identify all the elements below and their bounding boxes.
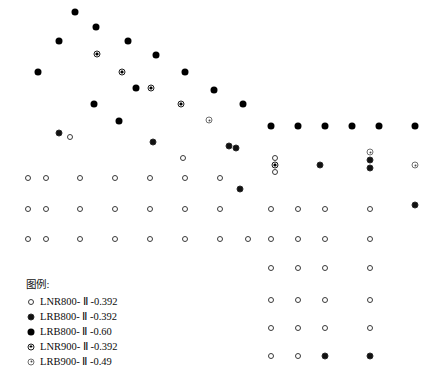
data-point-lrb900 [412,162,419,169]
data-point-lrb800b [153,52,160,59]
data-point-lnr900 [272,162,279,169]
data-point-lrb800b [56,38,63,45]
scatter-plot-figure: 图例: LNR800- Ⅱ -0.392LRB800- Ⅱ -0.392LRB8… [0,0,444,378]
data-point-lrb800a [367,353,374,360]
data-point-lrb800a [56,130,63,137]
data-point-lnr800 [295,236,301,242]
data-point-lrb800a [150,139,157,146]
data-point-lnr800 [295,206,301,212]
legend-item-label: LRB800- Ⅱ -0.60 [38,324,112,339]
data-point-lnr800 [43,236,49,242]
data-point-lnr800 [268,353,274,359]
legend-title: 图例: [26,278,216,292]
bullseye-circle-icon [26,339,38,354]
data-point-lrb800a [237,186,244,193]
legend-items: LNR800- Ⅱ -0.392LRB800- Ⅱ -0.392LRB800- … [26,294,216,369]
data-point-lrb800b [91,101,98,108]
data-point-lrb800a [226,143,233,150]
data-point-lnr800 [182,175,188,181]
data-point-lnr800 [217,236,223,242]
data-point-lnr800 [367,325,373,331]
legend: 图例: LNR800- Ⅱ -0.392LRB800- Ⅱ -0.392LRB8… [26,278,216,369]
data-point-lrb800b [349,123,356,130]
data-point-lnr800 [112,175,118,181]
data-point-lnr800 [180,155,186,161]
data-point-lnr800 [182,236,188,242]
donut-circle-icon [26,354,38,369]
data-point-lnr800 [147,175,153,181]
data-point-lrb800b [93,24,100,31]
data-point-lnr900 [119,69,126,76]
data-point-lnr800 [322,265,328,271]
data-point-lrb800b [211,87,218,94]
legend-item-lrb800b: LRB800- Ⅱ -0.60 [26,324,216,339]
legend-item-label: LNR900- Ⅱ -0.392 [38,339,118,354]
data-point-lnr800 [295,353,301,359]
legend-item-lnr900: LNR900- Ⅱ -0.392 [26,339,216,354]
filled-circle-icon [26,324,38,339]
data-point-lrb800b [322,123,329,130]
open-circle-icon [26,294,38,309]
data-point-lnr800 [217,206,223,212]
data-point-lnr800 [268,236,274,242]
data-point-lrb800b [412,123,419,130]
data-point-lnr800 [112,206,118,212]
data-point-lnr800 [43,206,49,212]
legend-item-lrb800a: LRB800- Ⅱ -0.392 [26,309,216,324]
data-point-lrb800b [376,123,383,130]
data-point-lnr800 [367,265,373,271]
legend-item-lnr800: LNR800- Ⅱ -0.392 [26,294,216,309]
data-point-lnr800 [77,236,83,242]
data-point-lnr800 [245,236,251,242]
data-point-lnr800 [147,236,153,242]
data-point-lrb800b [72,9,79,16]
data-point-lnr900 [94,51,101,58]
data-point-lnr800 [295,297,301,303]
data-point-lnr800 [268,325,274,331]
data-point-lnr800 [268,206,274,212]
data-point-lrb800b [240,101,247,108]
legend-item-lrb900: LRB900- Ⅱ -0.49 [26,354,216,369]
legend-item-label: LRB800- Ⅱ -0.392 [38,309,117,324]
filled-circle-haloed-icon [26,309,38,324]
data-point-lnr800 [147,206,153,212]
data-point-lrb800b [295,123,302,130]
data-point-lnr900 [178,101,185,108]
data-point-lrb800b [182,69,189,76]
legend-item-label: LNR800- Ⅱ -0.392 [38,294,118,309]
data-point-lnr800 [322,236,328,242]
data-point-lnr800 [217,175,223,181]
data-point-lnr800 [25,175,31,181]
data-point-lnr800 [268,297,274,303]
data-point-lnr800 [25,206,31,212]
data-point-lrb800a [233,145,240,152]
data-point-lrb800b [268,123,275,130]
data-point-lnr800 [295,265,301,271]
data-point-lrb800a [367,157,374,164]
data-point-lrb800a [367,165,374,172]
data-point-lnr800 [67,134,73,140]
data-point-lnr800 [322,206,328,212]
data-point-lnr800 [25,236,31,242]
data-point-lnr800 [182,206,188,212]
data-point-lnr800 [272,155,278,161]
data-point-lrb900 [367,149,374,156]
data-point-lnr800 [112,236,118,242]
data-point-lnr800 [367,206,373,212]
data-point-lnr800 [295,325,301,331]
data-point-lnr800 [367,236,373,242]
data-point-lnr900 [148,85,155,92]
data-point-lrb800b [125,38,132,45]
data-point-lnr800 [322,325,328,331]
data-point-lrb800a [412,202,419,209]
data-point-lrb900 [206,117,213,124]
data-point-lnr800 [367,297,373,303]
data-point-lnr800 [272,169,278,175]
data-point-lnr800 [43,175,49,181]
data-point-lnr800 [77,175,83,181]
data-point-lrb800b [35,69,42,76]
data-point-lrb800a [317,162,324,169]
data-point-lnr800 [77,206,83,212]
data-point-lnr800 [322,297,328,303]
data-point-lnr800 [268,265,274,271]
